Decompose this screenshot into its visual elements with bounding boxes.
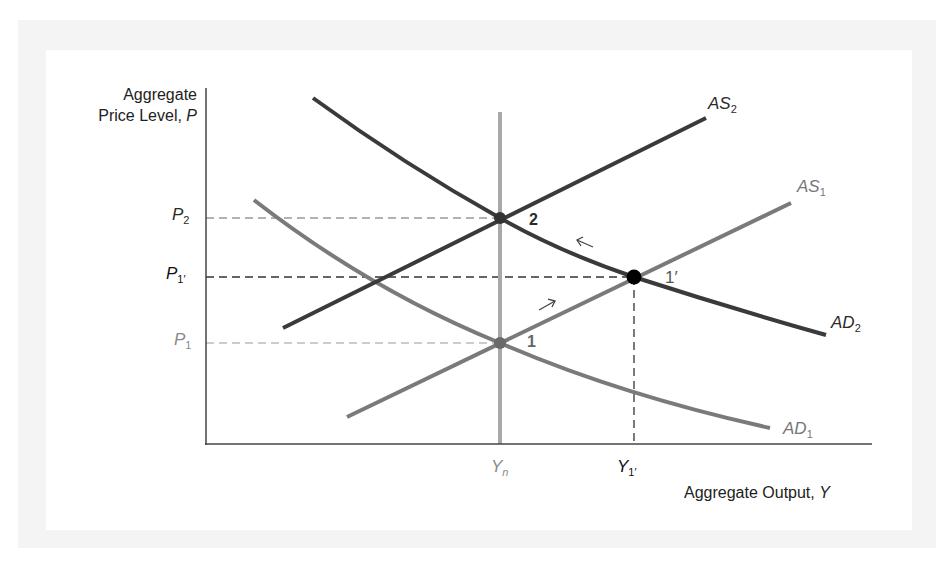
as1-label: AS1: [797, 177, 826, 197]
as1-curve: [347, 203, 791, 417]
ad1-curve: [254, 200, 770, 428]
point-1prime-marker: [627, 270, 642, 285]
point-1-marker: [494, 337, 506, 349]
point-2-marker: [494, 212, 506, 224]
arrow-along-ad2-icon: [577, 237, 593, 247]
point-1prime-label: 1′: [665, 268, 678, 288]
y-tick-p1prime: P1′: [166, 264, 186, 284]
ad1-label: AD1: [783, 419, 813, 439]
point-1-label: 1: [527, 333, 536, 351]
x-tick-y1prime: Y1′: [617, 457, 637, 477]
y-axis-title-line1: Aggregate: [98, 84, 197, 105]
y-axis-title-line2: Price Level, P: [98, 105, 197, 126]
ad2-curve: [313, 98, 826, 335]
x-axis-title: Aggregate Output, Y: [684, 484, 830, 502]
arrow-along-as1-icon: [539, 299, 555, 310]
x-tick-yn: Yn: [491, 457, 508, 477]
ad2-label: AD2: [831, 313, 861, 333]
y-tick-p2: P2: [172, 205, 189, 225]
y-axis-title: Aggregate Price Level, P: [98, 84, 197, 126]
y-tick-p1: P1: [174, 330, 191, 350]
as2-label: AS2: [708, 94, 737, 114]
as2-curve: [283, 118, 706, 328]
point-2-label: 2: [529, 211, 538, 229]
